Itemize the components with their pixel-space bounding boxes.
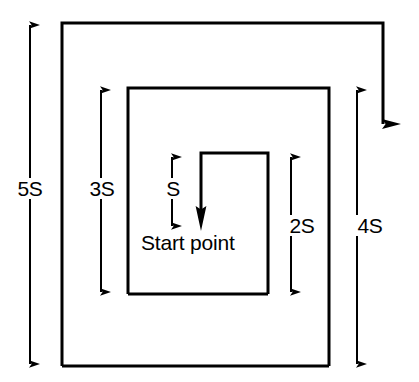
dimension-label-3s: 3S	[84, 178, 120, 199]
start-point-label: Start point	[141, 232, 235, 253]
dimension-label-s: S	[160, 178, 186, 199]
spiral-inner-leg	[201, 153, 268, 294]
dimension-label-5s: 5S	[12, 178, 48, 199]
spiral-path-graphic	[0, 0, 419, 382]
dimension-label-4s: 4S	[352, 215, 388, 236]
dimension-label-2s: 2S	[284, 215, 320, 236]
spiral-scan-diagram: 5S 3S S 2S 4S Start point	[0, 0, 419, 382]
start-point-arrowhead	[196, 206, 207, 231]
